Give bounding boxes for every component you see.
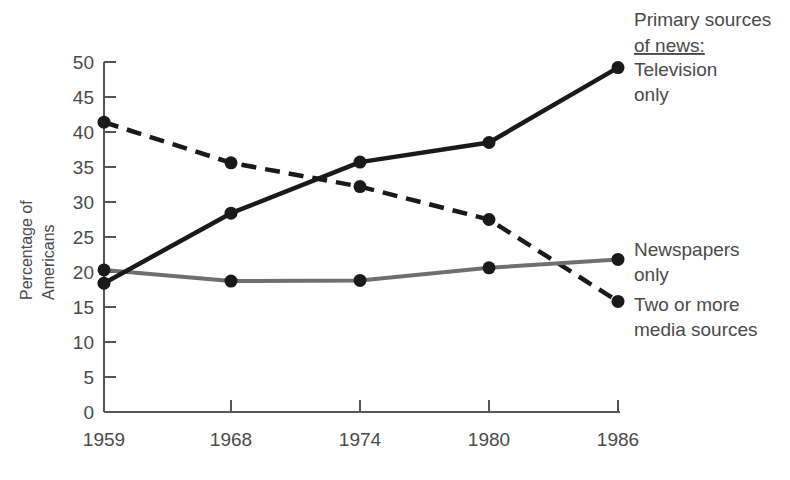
x-tick-label-1986: 1986 <box>597 429 639 450</box>
y-tick-label-20: 20 <box>73 262 94 283</box>
y-axis-title-line2: Americans <box>40 224 57 300</box>
y-tick-label-0: 0 <box>83 402 94 423</box>
series-points-newspapers <box>98 253 625 288</box>
y-tick-label-15: 15 <box>73 297 94 318</box>
x-tick-label-1974: 1974 <box>339 429 382 450</box>
data-point <box>612 295 625 308</box>
line-chart: 50 45 40 35 30 25 20 15 10 5 0 1959 1968… <box>0 0 790 480</box>
y-axis-ticks <box>104 62 116 412</box>
data-point <box>354 156 367 169</box>
data-point <box>612 61 625 74</box>
data-point <box>225 156 238 169</box>
legend-title-line2: of news: <box>634 35 705 56</box>
data-point <box>354 274 367 287</box>
y-axis-title-line1: Percentage of <box>18 200 35 300</box>
y-tick-label-25: 25 <box>73 227 94 248</box>
legend-label-newspapers-line1: Newspapers <box>634 239 740 260</box>
data-point <box>612 253 625 266</box>
y-tick-label-35: 35 <box>73 157 94 178</box>
legend-label-newspapers-line2: only <box>634 264 669 285</box>
series-newspapers-only <box>98 253 625 288</box>
legend-label-television-line2: only <box>634 84 669 105</box>
data-point <box>98 116 111 129</box>
data-point <box>354 180 367 193</box>
legend-label-two-or-more-line2: media sources <box>634 319 758 340</box>
x-tick-label-1968: 1968 <box>210 429 252 450</box>
legend-label-two-or-more-line1: Two or more <box>634 294 740 315</box>
chart-container: 50 45 40 35 30 25 20 15 10 5 0 1959 1968… <box>0 0 790 480</box>
data-point <box>483 213 496 226</box>
y-tick-label-40: 40 <box>73 122 94 143</box>
x-axis-ticks <box>104 400 618 412</box>
x-tick-label-1959: 1959 <box>83 429 125 450</box>
data-point <box>225 275 238 288</box>
data-point <box>483 136 496 149</box>
y-tick-label-30: 30 <box>73 192 94 213</box>
data-point <box>98 277 111 290</box>
legend: Primary sources of news: Television only… <box>634 9 771 340</box>
data-point <box>483 261 496 274</box>
y-tick-label-45: 45 <box>73 87 94 108</box>
data-point <box>225 207 238 220</box>
y-tick-label-5: 5 <box>83 367 94 388</box>
legend-label-television-line1: Television <box>634 59 717 80</box>
x-tick-label-1980: 1980 <box>468 429 510 450</box>
y-tick-label-10: 10 <box>73 332 94 353</box>
data-point <box>98 263 111 276</box>
legend-title-line1: Primary sources <box>634 9 771 30</box>
y-tick-label-50: 50 <box>73 52 94 73</box>
